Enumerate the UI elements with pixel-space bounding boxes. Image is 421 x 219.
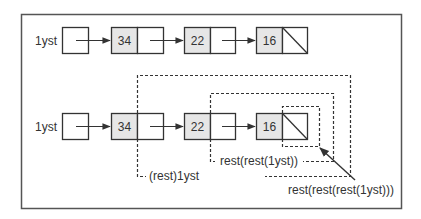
- node-value: 22: [191, 120, 205, 134]
- list-row-2: 1yst 34 22 16: [35, 114, 308, 140]
- head-label: 1yst: [35, 120, 58, 134]
- rest-2-label: rest(rest(1yst)): [220, 154, 298, 168]
- rest-3-label: rest(rest(rest(1yst))): [288, 183, 394, 197]
- node-value: 16: [263, 34, 277, 48]
- node-value: 34: [118, 34, 132, 48]
- rest-3-pointer-arrow: [320, 148, 355, 180]
- node-value: 34: [118, 120, 132, 134]
- node-value: 16: [263, 120, 277, 134]
- linked-list-diagram: 1yst 34 22 16 1yst 34: [0, 0, 421, 219]
- rest-1-label: (rest)1yst: [149, 169, 200, 183]
- node-value: 22: [191, 34, 205, 48]
- head-label: 1yst: [35, 34, 58, 48]
- list-node-last: 16: [257, 114, 308, 140]
- list-node-last: 16: [257, 28, 308, 54]
- list-row-1: 1yst 34 22 16: [35, 28, 308, 54]
